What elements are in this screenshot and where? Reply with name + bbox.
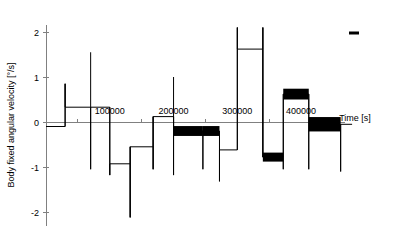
x-axis-tick-label: 300000 <box>222 106 252 116</box>
y-axis-tick-label: -1 <box>31 163 39 173</box>
noise-band <box>283 89 309 100</box>
noise-band <box>263 153 283 162</box>
x-axis-title: Time [s] <box>339 113 371 123</box>
y-axis-tick-label: -2 <box>31 208 39 218</box>
x-axis-tick-label: 400000 <box>286 106 316 116</box>
noise-band <box>203 126 220 136</box>
axes-layer <box>43 25 345 225</box>
x-axis-tick-label: 100000 <box>95 106 125 116</box>
chart-container: 210-1-2100000200000300000400000 Body fix… <box>0 0 399 241</box>
y-axis-title: Body fixed angular velocity [°/s] <box>6 62 16 187</box>
noise-band <box>174 126 203 136</box>
y-axis-tick-label: 0 <box>34 118 39 128</box>
y-axis-tick-label: 1 <box>34 73 39 83</box>
x-axis-tick-label: 200000 <box>159 106 189 116</box>
y-axis-tick-label: 2 <box>34 28 39 38</box>
noise-band <box>309 117 341 131</box>
angular-velocity-chart: 210-1-2100000200000300000400000 Body fix… <box>0 0 399 241</box>
